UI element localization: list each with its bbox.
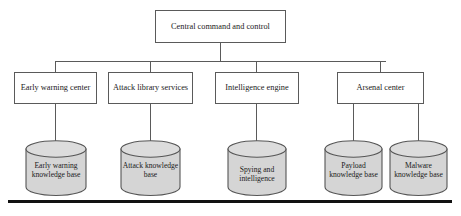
node-label: Attack library services	[111, 83, 190, 93]
cylinder-spying-and-intelligence[interactable]: Spying and intelligence	[227, 140, 287, 196]
node-intelligence-engine[interactable]: Intelligence engine	[215, 72, 299, 104]
bottom-divider-rule	[8, 200, 452, 203]
cylinder-malware-knowledge-base[interactable]: Malware knowledge base	[389, 140, 448, 196]
cylinder-label: Early warning knowledge base	[25, 162, 87, 179]
node-early-warning-center[interactable]: Early warning center	[14, 72, 97, 104]
cylinder-attack-knowledge-base[interactable]: Attack knowledge base	[120, 140, 181, 196]
cylinder-early-warning-knowledge-base[interactable]: Early warning knowledge base	[25, 140, 87, 196]
cylinder-label: Spying and intelligence	[227, 166, 287, 183]
cylinder-label: Payload knowledge base	[324, 162, 383, 179]
node-label: Arsenal center	[340, 83, 421, 93]
node-central-command-and-control[interactable]: Central command and control	[155, 10, 286, 43]
cylinder-payload-knowledge-base[interactable]: Payload knowledge base	[324, 140, 383, 196]
node-label: Early warning center	[17, 83, 94, 93]
node-arsenal-center[interactable]: Arsenal center	[337, 72, 424, 104]
cylinder-label: Malware knowledge base	[389, 162, 448, 179]
node-label: Intelligence engine	[218, 83, 296, 93]
node-label: Central command and control	[158, 22, 283, 32]
diagram-canvas: Central command and control Early warnin…	[0, 0, 461, 216]
node-attack-library-services[interactable]: Attack library services	[108, 72, 193, 104]
cylinder-label: Attack knowledge base	[120, 162, 181, 179]
